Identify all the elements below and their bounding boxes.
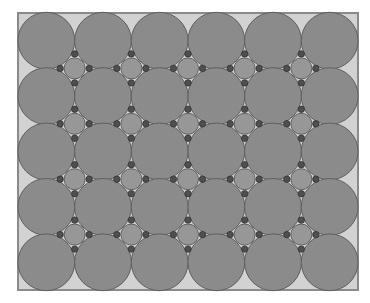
large-circle [131, 234, 188, 291]
contact-dot [298, 246, 304, 252]
contact-dot [71, 135, 77, 141]
contact-dot [185, 51, 191, 57]
contact-dot [185, 80, 191, 86]
interstitial-circle [234, 58, 255, 79]
contact-dot [185, 135, 191, 141]
contact-dot [128, 106, 134, 112]
contact-dot [298, 106, 304, 112]
large-circle [18, 68, 75, 125]
contact-dot [86, 176, 92, 182]
contact-dot [86, 231, 92, 237]
large-circle [131, 179, 188, 236]
large-circle [245, 12, 302, 69]
contact-dot [256, 121, 262, 127]
contact-dot [284, 65, 290, 71]
contact-dot [298, 191, 304, 197]
contact-dot [71, 191, 77, 197]
large-circle [301, 179, 358, 236]
interstitial-circle [291, 58, 312, 79]
large-circle [131, 12, 188, 69]
contact-dot [128, 217, 134, 223]
contact-dot [241, 135, 247, 141]
interstitial-circle [291, 224, 312, 245]
contact-dot [57, 231, 63, 237]
interstitial-circle [121, 224, 142, 245]
contact-dot [71, 217, 77, 223]
contact-dot [199, 231, 205, 237]
contact-dot [143, 121, 149, 127]
interstitial-circle [178, 58, 199, 79]
contact-dot [241, 217, 247, 223]
interstitial-circle [121, 113, 142, 134]
large-circle [188, 179, 245, 236]
contact-dot [71, 106, 77, 112]
contact-dot [241, 106, 247, 112]
large-circle [131, 123, 188, 180]
contact-dot [185, 246, 191, 252]
contact-dot [71, 51, 77, 57]
large-circle [188, 234, 245, 291]
large-circle [301, 123, 358, 180]
large-circle [301, 234, 358, 291]
contact-dot [57, 176, 63, 182]
interstitial-circle [121, 169, 142, 190]
large-circle [245, 68, 302, 125]
contact-dot [71, 162, 77, 168]
contact-dot [199, 176, 205, 182]
large-circle [245, 179, 302, 236]
contact-dot [185, 217, 191, 223]
interstitial-circle [64, 224, 85, 245]
contact-dot [227, 65, 233, 71]
contact-dot [199, 65, 205, 71]
contact-dot [298, 162, 304, 168]
large-circle [188, 68, 245, 125]
contact-dot [86, 65, 92, 71]
contact-dot [298, 217, 304, 223]
contact-dot [170, 231, 176, 237]
contact-dot [128, 80, 134, 86]
large-circle [301, 12, 358, 69]
large-circle [75, 179, 132, 236]
interstitial-circle [178, 224, 199, 245]
interstitial-circle [64, 58, 85, 79]
contact-dot [185, 191, 191, 197]
large-circle [188, 123, 245, 180]
interstitial-circle [64, 169, 85, 190]
contact-dot [313, 231, 319, 237]
interstitial-circle [178, 113, 199, 134]
large-circle [18, 123, 75, 180]
contact-dot [227, 176, 233, 182]
contact-dot [71, 246, 77, 252]
interstitial-circle [64, 113, 85, 134]
interstitial-circle [234, 224, 255, 245]
contact-dot [185, 162, 191, 168]
contact-dot [199, 121, 205, 127]
contact-dot [128, 51, 134, 57]
contact-dot [256, 176, 262, 182]
contact-dot [114, 176, 120, 182]
contact-dot [170, 121, 176, 127]
contact-dot [114, 121, 120, 127]
contact-dot [241, 246, 247, 252]
circle-packing-diagram [0, 0, 370, 303]
contact-dot [114, 65, 120, 71]
contact-dot [284, 176, 290, 182]
contact-dot [241, 80, 247, 86]
interstitial-circle [121, 58, 142, 79]
contact-dot [298, 80, 304, 86]
contact-dot [313, 65, 319, 71]
contact-dot [241, 51, 247, 57]
large-circle [18, 12, 75, 69]
contact-dot [284, 121, 290, 127]
contact-dot [256, 65, 262, 71]
contact-dot [143, 231, 149, 237]
contact-dot [185, 106, 191, 112]
large-circle [75, 123, 132, 180]
contact-dot [128, 162, 134, 168]
large-circle [18, 179, 75, 236]
contact-dot [170, 176, 176, 182]
contact-dot [57, 121, 63, 127]
contact-dot [227, 231, 233, 237]
contact-dot [241, 191, 247, 197]
large-circle [75, 234, 132, 291]
